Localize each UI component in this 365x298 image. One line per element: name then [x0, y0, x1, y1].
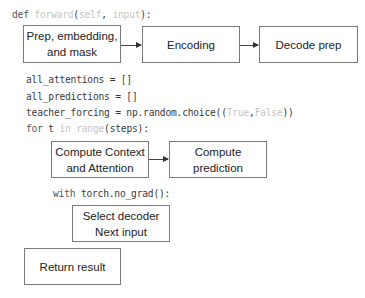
box-encoding-label: Encoding [167, 37, 215, 53]
function-name: forward [34, 9, 73, 20]
keyword-with: with [53, 188, 75, 199]
literal-false: False [255, 107, 283, 118]
paren-close: ): [140, 9, 151, 20]
code-line-all-predictions: all_predictions = [] [26, 91, 138, 103]
box-compute-prediction: Compute prediction [169, 141, 267, 178]
code-def-line: def forward(self, input): [12, 9, 151, 21]
arrow-prep-to-encoding [121, 45, 141, 46]
keyword-in: in [59, 123, 70, 134]
teacher-forcing-pre: teacher_forcing = np.random.choice(( [26, 107, 227, 118]
box-prep-line2: and mask [27, 44, 118, 60]
arrow-encoding-to-decode-prep [240, 45, 258, 46]
box-select-decoder-next-input: Select decoder Next input [72, 205, 170, 242]
box-compute-context-attention: Compute Context and Attention [51, 141, 149, 178]
code-line-all-attentions: all_attentions = [] [26, 74, 132, 86]
box-select-decoder-line2: Next input [83, 224, 160, 240]
box-return-result: Return result [24, 248, 121, 285]
box-prep-embedding-mask: Prep, embedding, and mask [23, 25, 121, 63]
with-post: torch.no_grad(): [75, 188, 170, 199]
builtin-range: range [76, 123, 104, 134]
code-line-for-loop: for t in range(steps): [26, 123, 149, 135]
box-decode-prep-label: Decode prep [276, 37, 342, 53]
keyword-for: for [26, 123, 43, 134]
box-compute-context-line1: Compute Context [55, 144, 145, 160]
teacher-forcing-post: )) [283, 107, 294, 118]
box-decode-prep: Decode prep [259, 26, 358, 63]
arg-input: input [112, 9, 140, 20]
box-prep-line1: Prep, embedding, [27, 28, 118, 44]
box-compute-context-line2: and Attention [55, 160, 145, 176]
code-line-teacher-forcing: teacher_forcing = np.random.choice((True… [26, 107, 294, 119]
loop-post: (steps): [104, 123, 149, 134]
box-encoding: Encoding [142, 26, 240, 63]
box-return-result-label: Return result [40, 259, 106, 275]
arrow-context-to-prediction [149, 159, 168, 160]
keyword-def: def [12, 9, 29, 20]
box-select-decoder-line1: Select decoder [83, 208, 160, 224]
box-compute-prediction-label: Compute prediction [170, 144, 266, 176]
literal-true: True [227, 107, 249, 118]
arg-sep: , [101, 9, 112, 20]
code-line-with-no-grad: with torch.no_grad(): [53, 188, 170, 200]
arg-self: self [79, 9, 101, 20]
loop-var: t [43, 123, 60, 134]
